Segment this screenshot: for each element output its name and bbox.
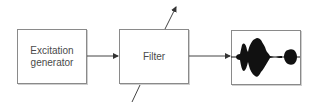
speech-waveform-icon [231,38,300,77]
diagram-canvas: Excitation generator Filter [0,0,316,106]
filter-parameter-line-bottom [132,85,140,102]
filter-parameter-arrow-top [165,7,176,29]
connections-layer [0,0,316,106]
